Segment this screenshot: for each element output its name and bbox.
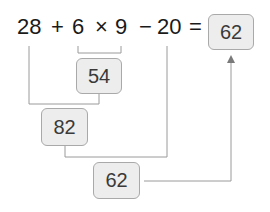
operator-minus: − <box>139 14 152 40</box>
connector-to-result <box>144 62 231 181</box>
operand-28: 28 <box>17 14 41 40</box>
result-box: 62 <box>208 14 254 50</box>
operand-6: 6 <box>72 14 84 40</box>
operator-plus: + <box>51 14 64 40</box>
step-box-62: 62 <box>93 162 140 199</box>
operator-times: × <box>95 14 108 40</box>
operand-9: 9 <box>115 14 127 40</box>
arrow-up-icon <box>227 55 235 63</box>
bracket-6x9 <box>78 46 121 53</box>
operator-equals: = <box>189 14 202 40</box>
step-box-82: 82 <box>41 108 88 146</box>
operand-20: 20 <box>157 14 181 40</box>
step-box-54: 54 <box>76 58 122 94</box>
